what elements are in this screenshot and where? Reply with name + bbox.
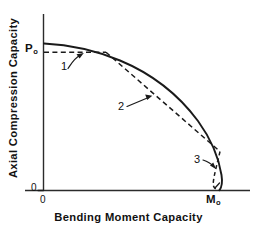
callout-2-leader-line (127, 98, 149, 107)
callout-label-3: 3 (194, 154, 200, 165)
interaction-diagram-figure: Axial Compression Capacity Bending Momen… (0, 0, 257, 235)
callout-label-2: 2 (118, 101, 124, 112)
y-axis-label-text: Axial Compression Capacity (7, 17, 19, 177)
m0-marker-base: M (206, 193, 216, 205)
x-axis-label: Bending Moment Capacity (0, 212, 257, 223)
p0-marker-base: P (25, 42, 33, 54)
p0-marker-label: Po (25, 43, 38, 55)
m0-marker-label: Mo (206, 194, 221, 206)
callout-1-arrowhead (77, 53, 84, 59)
callout-1-leader-line (68, 55, 80, 68)
m0-tick-mark (215, 183, 220, 188)
x-axis-origin-label: 0 (40, 195, 46, 205)
callout-2-arrowhead (145, 95, 152, 100)
m0-marker-subscript: o (216, 198, 221, 207)
y-axis-origin-label: 0 (31, 183, 37, 193)
callout-label-1: 1 (61, 61, 67, 72)
p0-marker-subscript: o (33, 47, 38, 56)
y-axis-label: Axial Compression Capacity (2, 0, 24, 195)
